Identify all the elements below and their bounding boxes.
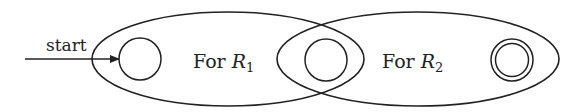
accept-state[interactable] xyxy=(491,39,533,81)
start-label: start xyxy=(46,35,87,55)
region-r1-label: For R1 xyxy=(193,50,254,75)
region-r2-label: For R2 xyxy=(382,50,443,75)
start-state[interactable] xyxy=(119,38,161,80)
shared-state[interactable] xyxy=(305,39,347,81)
nfa-concatenation-diagram: start For R1 For R2 xyxy=(0,0,584,112)
